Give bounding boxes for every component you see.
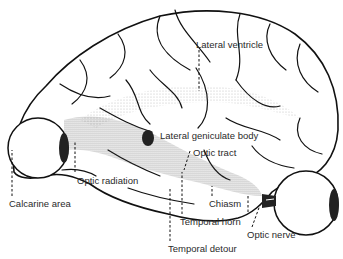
visual-pathway-diagram: Lateral ventricle Lateral geniculate bod… xyxy=(0,0,343,259)
label-lateral-geniculate-body: Lateral geniculate body xyxy=(160,130,258,141)
right-eyeball xyxy=(274,171,338,235)
right-eyeball-lens xyxy=(329,189,339,221)
label-calcarine-area: Calcarine area xyxy=(9,198,71,209)
left-eyeball-lens xyxy=(59,133,69,163)
label-optic-nerve: Optic nerve xyxy=(247,229,296,240)
lateral-geniculate-body-shape xyxy=(142,130,154,146)
label-temporal-detour: Temporal detour xyxy=(168,243,237,254)
label-optic-radiation: Optic radiation xyxy=(77,175,138,186)
label-chiasm: Chiasm xyxy=(209,198,241,209)
label-lateral-ventricle: Lateral ventricle xyxy=(196,39,263,50)
label-temporal-horn: Temporal horn xyxy=(180,216,241,227)
label-optic-tract: Optic tract xyxy=(193,147,236,158)
optic-nerve-shape xyxy=(262,194,276,208)
